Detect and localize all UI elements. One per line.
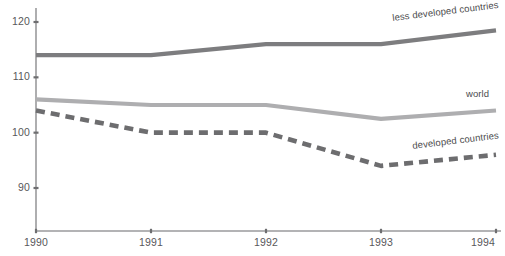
x-tick-label-1993: 1993 (361, 236, 401, 248)
chart-plot-area (0, 0, 505, 256)
chart-container: 120 110 100 90 1990 1991 1992 1993 1994 … (0, 0, 505, 256)
x-tick-label-1994: 1994 (463, 236, 503, 248)
y-tick-label-110: 110 (4, 70, 30, 82)
series-line-world (36, 99, 496, 118)
x-tick-label-1991: 1991 (131, 236, 171, 248)
x-tick-label-1990: 1990 (16, 236, 56, 248)
series-label-world: world (466, 88, 489, 99)
y-tick-label-100: 100 (4, 126, 30, 138)
x-tick-label-1992: 1992 (246, 236, 286, 248)
y-tick-label-120: 120 (4, 15, 30, 27)
series-line-less-developed-countries (36, 30, 496, 55)
y-tick-label-90: 90 (4, 181, 30, 193)
